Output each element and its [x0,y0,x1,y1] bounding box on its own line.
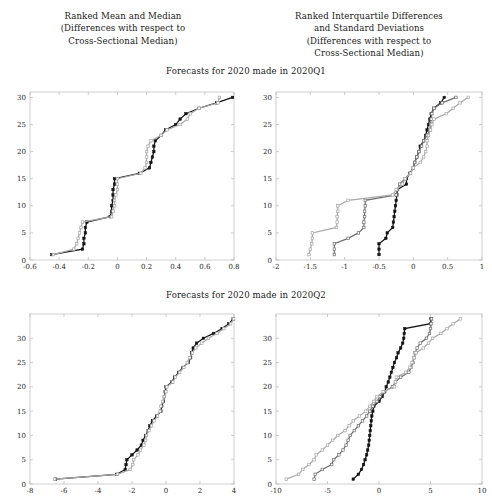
series-marker [113,177,116,180]
series-marker [77,237,80,240]
series-marker [75,242,78,245]
series-marker [357,473,360,476]
y-tick-label: 0 [22,481,26,489]
series-marker [431,123,434,126]
series-marker [363,221,366,224]
series-marker [124,468,127,471]
series-marker [145,150,148,153]
x-tick-label: 5 [428,487,432,495]
series-marker [125,463,128,466]
series-marker [370,420,373,423]
series-marker [331,439,334,442]
series-marker [321,449,324,452]
series-marker [376,400,379,403]
series-marker [337,210,340,213]
series-marker [229,322,232,325]
series-marker [336,221,339,224]
series-marker [314,473,317,476]
series-marker [185,112,188,115]
series-marker [357,424,360,427]
y-tick-label: 0 [22,257,26,265]
series-marker [315,454,318,457]
series-marker [116,183,119,186]
series-marker [403,332,406,335]
series-marker [420,145,423,148]
series-marker [399,347,402,350]
series-marker [452,107,455,110]
x-tick-label: 0 [115,263,119,271]
series-marker [413,161,416,164]
series-marker [191,352,194,355]
x-tick-label: -2 [273,263,280,271]
x-tick-label: 0.6 [199,263,211,271]
series-marker [395,356,398,359]
x-tick-label: 0 [164,487,168,495]
series-marker [430,118,433,121]
series-marker [363,215,366,218]
y-tick-label: 30 [17,335,26,343]
series-marker [427,134,430,137]
series-marker [427,342,430,345]
series-marker [401,342,404,345]
x-tick-label: -5 [324,487,331,495]
y-tick-label: 30 [263,94,272,102]
series-line-2 [53,97,219,254]
series-line-2 [334,97,456,254]
series-marker [166,129,169,132]
series-marker [179,123,182,126]
x-tick-label: -10 [270,487,281,495]
series-marker [419,342,422,345]
series-marker [347,199,350,202]
series-marker [159,410,162,413]
series-marker [166,386,169,389]
series-marker [165,390,168,393]
series-marker [333,248,336,251]
series-marker [378,253,381,256]
series-marker [459,102,462,105]
series-marker [129,468,132,471]
series-marker [369,429,372,432]
series-marker [363,210,366,213]
series-marker [409,366,412,369]
series-marker [386,232,389,235]
series-marker [353,429,356,432]
series-marker [378,248,381,251]
y-tick-label: 15 [17,175,26,183]
chart-bottom-left: -8-6-4-2024051015202530 [2,308,242,500]
series-marker [183,366,186,369]
y-tick-label: 10 [263,432,272,440]
series-marker [393,361,396,364]
series-marker [382,390,385,393]
chart-top-left: -0.6-0.4-0.200.20.40.60.8051015202530 [2,86,242,276]
series-marker [326,444,329,447]
y-tick-label: 5 [268,229,272,237]
series-line-1 [56,319,234,479]
chart-bottom-right: -10-50510051015202530 [250,308,490,500]
series-marker [395,188,398,191]
series-marker [112,210,115,213]
series-marker [368,434,371,437]
series-marker [81,221,84,224]
series-marker [145,156,148,159]
series-marker [425,337,428,340]
series-marker [357,232,360,235]
series-marker [218,96,221,99]
series-marker [429,327,432,330]
series-line-1 [379,97,444,254]
series-marker [161,400,164,403]
x-tick-label: 10 [478,487,487,495]
series-marker [145,161,148,164]
series-marker [335,226,338,229]
series-marker [143,444,146,447]
y-tick-label: 25 [263,121,272,129]
series-marker [72,248,75,251]
series-marker [53,478,56,481]
series-marker [412,167,415,170]
y-tick-label: 15 [263,408,272,416]
series-marker [370,424,373,427]
series-marker [136,449,139,452]
x-tick-label: -2 [129,487,136,495]
series-marker [160,134,163,137]
series-marker [345,444,348,447]
series-marker [392,366,395,369]
